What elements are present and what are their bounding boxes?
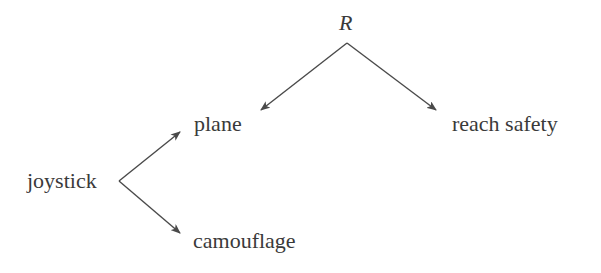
edge-r-to-plane [261, 43, 347, 110]
node-joystick: joystick [27, 170, 97, 192]
diagram-canvas: R plane reach safety joystick camouflage [0, 0, 601, 273]
node-r: R [339, 12, 352, 34]
node-plane: plane [194, 113, 242, 135]
edge-r-to-reach-safety [347, 43, 436, 110]
edges-layer [0, 0, 601, 273]
node-reach-safety: reach safety [452, 113, 558, 135]
edge-joystick-to-plane [119, 132, 180, 181]
edge-joystick-to-camouflage [119, 181, 180, 233]
node-camouflage: camouflage [193, 230, 296, 252]
